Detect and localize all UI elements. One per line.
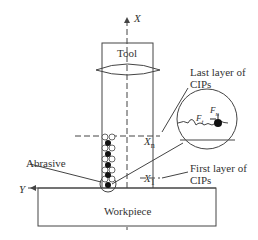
first-layer-label-1: First layer of	[190, 162, 247, 174]
fn-label: Fn	[210, 104, 219, 120]
x-axis-label: X	[134, 12, 141, 24]
diagram: X Y Tool Workpiece Abrasive Last layer o…	[0, 0, 258, 240]
abrasive-label: Abrasive	[26, 157, 66, 169]
y-axis-label: Y	[19, 183, 25, 195]
first-layer-label-2: CIPs	[190, 174, 211, 186]
tool-label: Tool	[117, 47, 137, 59]
last-layer-label-2: CIPs	[190, 78, 211, 90]
ft-label: Ft	[196, 112, 203, 128]
xn-label: Xn	[144, 135, 155, 152]
x1-label: X1	[144, 172, 155, 189]
diagram-drawing	[0, 0, 258, 240]
workpiece-label: Workpiece	[104, 205, 151, 217]
last-layer-label-1: Last layer of	[190, 66, 246, 78]
